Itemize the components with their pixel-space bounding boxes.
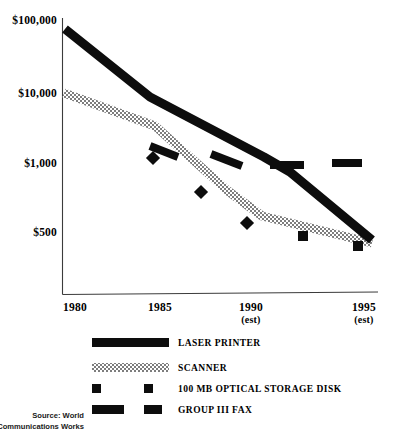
series-laser-printer — [65, 29, 372, 240]
legend-label-laser-printer: LASER PRINTER — [178, 338, 261, 348]
y-tick-label: $100,000 — [12, 14, 57, 26]
source-note: Source: World Communications Works — [0, 411, 84, 431]
y-tick-label: $500 — [33, 226, 57, 238]
x-tick-label: 1990 — [239, 301, 263, 313]
legend-swatch-group-iii-fax — [144, 405, 162, 414]
legend-label-optical-disk: 100 MB OPTICAL STORAGE DISK — [178, 384, 342, 394]
chart-legend: LASER PRINTER SCANNER 100 MB OPTICAL STO… — [92, 338, 342, 415]
chart-canvas: $100,000 $10,000 $1,000 $500 1980 1985 1… — [0, 0, 393, 439]
legend-swatch-optical-disk — [92, 384, 101, 393]
legend-swatch-group-iii-fax — [92, 405, 124, 414]
x-tick-sublabel: (est) — [241, 314, 260, 326]
fax-segment — [211, 154, 242, 166]
source-line-2: Communications Works — [0, 422, 84, 431]
x-tick-sublabel: (est) — [354, 314, 373, 326]
x-tick-label: 1980 — [63, 301, 87, 313]
optical-disk-marker — [353, 241, 363, 251]
series-scanner — [64, 93, 372, 243]
y-axis-ticks: $100,000 $10,000 $1,000 $500 — [12, 14, 57, 238]
legend-label-scanner: SCANNER — [178, 363, 227, 373]
source-line-1: Source: World — [32, 411, 84, 420]
legend-swatch-scanner — [92, 363, 169, 372]
laser-printer-line — [65, 29, 372, 240]
scanner-line — [64, 93, 372, 243]
x-axis-line — [63, 292, 379, 295]
optical-disk-marker — [298, 231, 308, 241]
x-axis-ticks: 1980 1985 1990 (est) 1995 (est) — [63, 301, 376, 326]
legend-swatch-optical-disk — [144, 384, 153, 393]
x-tick-label: 1985 — [148, 301, 172, 313]
legend-swatch-laser-printer — [92, 338, 169, 347]
legend-label-group-iii-fax: GROUP III FAX — [178, 405, 252, 415]
optical-disk-marker — [194, 185, 208, 199]
y-tick-label: $1,000 — [24, 157, 57, 169]
price-decline-chart: $100,000 $10,000 $1,000 $500 1980 1985 1… — [0, 0, 393, 439]
y-tick-label: $10,000 — [18, 87, 57, 99]
optical-disk-marker — [240, 216, 254, 230]
x-tick-label: 1995 — [352, 301, 376, 313]
